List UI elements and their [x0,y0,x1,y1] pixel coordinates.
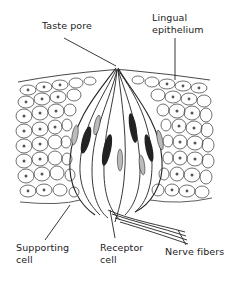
nerve-fibers [108,210,188,244]
label-nerve-fibers: Nerve fibers [165,246,224,258]
label-taste-pore: Taste pore [42,20,92,32]
epithelium-cells [16,70,214,204]
label-receptor-cell-line2: cell [100,254,117,266]
label-supporting-cell-line1: Supporting [16,242,69,254]
right-epithelial-cells [132,76,214,198]
taste-bud-diagram [0,0,228,282]
label-lingual-epithelium-line1: Lingual [152,12,187,24]
label-lingual-epithelium-line2: epithelium [152,24,204,36]
label-receptor-cell-line1: Receptor [100,242,143,254]
label-supporting-cell-line2: cell [16,254,33,266]
